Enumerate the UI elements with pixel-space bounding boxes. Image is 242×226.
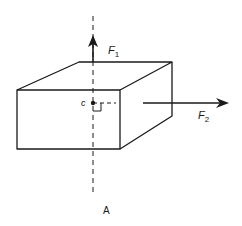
point-c: [91, 101, 95, 105]
rectangular-block: [17, 62, 172, 149]
block-front-face: [17, 90, 120, 149]
block-right-face: [120, 62, 172, 149]
force-diagram: c F1 F2 A: [0, 0, 242, 226]
figure-caption: A: [103, 205, 110, 216]
force-f1-label: F1: [108, 44, 120, 59]
force-f2-label: F2: [198, 109, 210, 124]
force-f1-arrow: [88, 35, 98, 62]
force-f2-arrow: [143, 98, 229, 108]
point-c-label: c: [81, 98, 86, 108]
block-top-face: [17, 62, 172, 90]
